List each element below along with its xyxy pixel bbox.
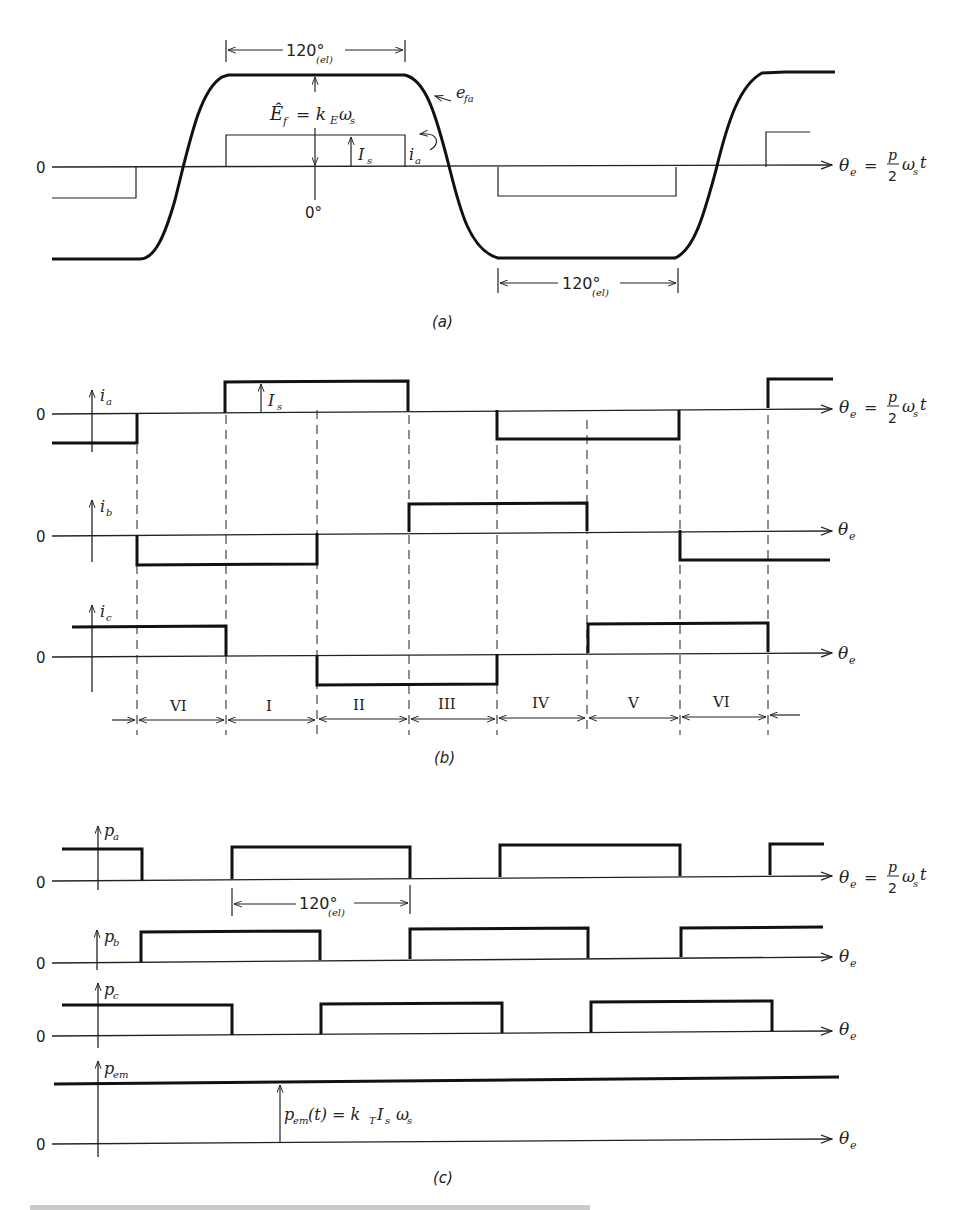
- zero-label-pc: 0: [36, 1028, 46, 1046]
- svg-text:e: e: [850, 1030, 857, 1043]
- svg-text:a: a: [113, 831, 119, 842]
- axis-label-a: θ e = p 2 ω s t: [839, 147, 927, 184]
- svg-text:θ: θ: [838, 643, 848, 663]
- svg-text:2: 2: [888, 410, 897, 426]
- svg-text:θ: θ: [839, 946, 849, 966]
- svg-text:E: E: [329, 114, 338, 127]
- span-label-top: 120° (el): [286, 41, 333, 65]
- svg-text:t: t: [920, 153, 927, 172]
- ib-label: i b: [100, 497, 112, 518]
- svg-text:θ: θ: [839, 155, 849, 175]
- zero-label-pa: 0: [36, 874, 46, 892]
- panel-a: 0 θ e = p 2 ω s t e fa i a: [36, 40, 927, 331]
- waveform-figure: 0 θ e = p 2 ω s t e fa i a: [0, 0, 973, 1210]
- svg-text:e: e: [849, 654, 856, 667]
- svg-text:em: em: [113, 1069, 128, 1080]
- svg-text:(el): (el): [328, 907, 345, 918]
- ic-label: i c: [100, 602, 112, 623]
- svg-text:s: s: [913, 408, 918, 419]
- amplitude-label: Ê f = k E ω s: [269, 102, 355, 128]
- svg-text:s: s: [913, 878, 918, 889]
- panel-b: 0 i a I s θ e = p 2 ω s t 0 i b: [36, 379, 927, 767]
- theta-axis-pa: [52, 876, 832, 881]
- svg-text:i: i: [409, 145, 414, 164]
- svg-text:=: =: [864, 398, 877, 417]
- pem-equation: p em (t) = k T I s ω s: [284, 1105, 412, 1126]
- zero-label-pb: 0: [36, 955, 46, 973]
- efa-label: e fa: [456, 83, 474, 104]
- theta-axis-pem: [52, 1139, 832, 1144]
- svg-text:c: c: [113, 990, 119, 1001]
- ia-label: i a: [100, 386, 112, 407]
- svg-text:2: 2: [888, 880, 897, 896]
- pa-label: p a: [104, 821, 119, 842]
- interval-label-iii: III: [438, 695, 456, 713]
- svg-text:s: s: [407, 1115, 412, 1126]
- ia-label-a: i a: [409, 145, 421, 166]
- svg-text:e: e: [850, 878, 857, 891]
- svg-text:θ: θ: [839, 1128, 849, 1148]
- svg-text:em: em: [293, 1115, 308, 1126]
- svg-text:s: s: [913, 166, 918, 177]
- power-waveform-pc: [62, 1001, 772, 1035]
- svg-text:f: f: [282, 115, 289, 128]
- svg-text:e: e: [850, 166, 857, 179]
- svg-text:c: c: [106, 612, 112, 623]
- svg-text:I: I: [267, 391, 275, 410]
- svg-text:θ: θ: [839, 397, 849, 417]
- axis-label-pem: θ e: [839, 1128, 857, 1152]
- svg-text:= k: = k: [296, 104, 326, 124]
- axis-label-ib: θ e: [838, 519, 856, 543]
- svg-text:e: e: [850, 408, 857, 421]
- svg-text:i: i: [100, 386, 105, 405]
- svg-text:fa: fa: [463, 93, 474, 104]
- pb-label: p b: [104, 927, 119, 948]
- svg-text:Ê: Ê: [269, 102, 283, 124]
- svg-text:s: s: [350, 115, 355, 126]
- svg-text:b: b: [106, 507, 112, 518]
- zero-label-ib: 0: [36, 528, 46, 546]
- svg-text:i: i: [100, 497, 105, 516]
- svg-text:p: p: [888, 389, 897, 405]
- theta-axis-ib: [52, 531, 832, 536]
- cutoff-caption-fragment: [30, 1205, 590, 1210]
- svg-text:I: I: [376, 1105, 384, 1124]
- axis-label-pb: θ e: [839, 946, 857, 970]
- svg-text:a: a: [106, 396, 112, 407]
- caption-a: (a): [432, 313, 453, 331]
- axis-label-b: θ e = p 2 ω s t: [839, 389, 927, 426]
- svg-text:(el): (el): [592, 287, 609, 298]
- caption-b: (b): [434, 749, 455, 767]
- theta-axis-pc: [52, 1031, 832, 1036]
- svg-text:θ: θ: [839, 867, 849, 887]
- power-waveform-pb: [141, 927, 823, 962]
- commutation-gridlines: [137, 410, 768, 735]
- svg-text:i: i: [100, 602, 105, 621]
- svg-text:t: t: [920, 395, 927, 414]
- svg-text:a: a: [415, 155, 421, 166]
- svg-text:e: e: [850, 957, 857, 970]
- svg-text:(t) = k: (t) = k: [308, 1105, 360, 1124]
- is-label-a: I s: [357, 145, 372, 166]
- svg-text:I: I: [357, 145, 365, 164]
- zero-label-pem: 0: [36, 1136, 46, 1154]
- pem-label: p em: [104, 1059, 128, 1080]
- zero-label-ia: 0: [36, 406, 46, 424]
- axis-label-pa: θ e = p 2 ω s t: [839, 859, 927, 896]
- theta-axis-a: [52, 165, 832, 167]
- svg-text:(el): (el): [316, 54, 333, 65]
- interval-label-v: V: [627, 694, 640, 712]
- power-waveform-pa: [62, 844, 824, 880]
- svg-text:T: T: [369, 1115, 377, 1126]
- svg-text:2: 2: [888, 168, 897, 184]
- interval-label-ii: II: [353, 696, 365, 714]
- span-label-bottom: 120° (el): [562, 274, 609, 298]
- caption-c: (c): [433, 1169, 453, 1187]
- svg-text:t: t: [920, 865, 927, 884]
- interval-dimension-row: [112, 715, 800, 720]
- is-label-b: I s: [267, 391, 282, 412]
- interval-label-i: I: [266, 697, 272, 715]
- axis-label-pc: θ e: [839, 1019, 857, 1043]
- svg-text:p: p: [888, 859, 897, 875]
- interval-label-vi-1: VI: [169, 697, 187, 715]
